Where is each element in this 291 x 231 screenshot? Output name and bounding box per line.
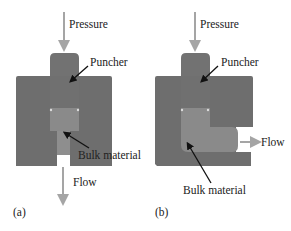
puncher-label: Puncher — [221, 56, 259, 68]
panel-b: Pressure Puncher Bulk material Flow (b) — [155, 12, 285, 219]
pressure-label: Pressure — [69, 18, 108, 30]
puncher — [50, 53, 79, 80]
bulk-label: Bulk material — [78, 149, 141, 161]
bulk-label: Bulk material — [183, 184, 246, 196]
panel-tag-a: (a) — [13, 206, 26, 219]
panel-tag-b: (b) — [155, 206, 169, 219]
pressure-label: Pressure — [200, 18, 239, 30]
bulk-material — [50, 108, 79, 131]
puncher-label: Puncher — [90, 56, 128, 68]
flow-label: Flow — [73, 176, 97, 188]
panel-a: Pressure Puncher Bulk material Flow (a) — [13, 12, 141, 219]
puncher-shaft — [181, 76, 210, 108]
flow-label: Flow — [261, 136, 285, 148]
puncher-shaft — [50, 76, 79, 108]
extrusion-diagram: Pressure Puncher Bulk material Flow (a) … — [0, 0, 291, 231]
puncher — [181, 53, 210, 80]
